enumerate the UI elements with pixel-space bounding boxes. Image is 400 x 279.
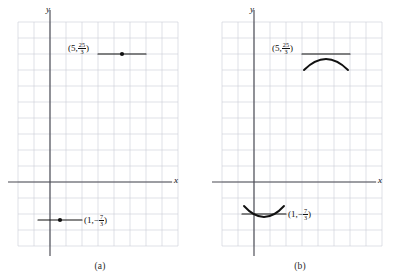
fraction-denominator: 3 <box>80 49 84 55</box>
label-close-paren: ) <box>290 44 293 53</box>
y-axis-label: y <box>46 4 50 14</box>
label-local-maximum: (5, 25 3 ) <box>272 42 293 56</box>
arc-concave-down-local-maximum <box>304 59 348 70</box>
label-sign: − <box>94 216 99 225</box>
fraction-25-over-3: 25 3 <box>282 42 290 56</box>
y-axis-label: y <box>250 4 254 14</box>
x-axis-label: x <box>174 175 178 185</box>
label-open-paren: (1, <box>288 210 298 219</box>
panel-a-plot <box>0 0 200 279</box>
figure-root: y x (5, 25 3 ) (1, − 7 3 ) (a) <box>0 0 400 279</box>
x-axis-label: x <box>378 175 382 185</box>
fraction-denominator: 3 <box>303 215 307 221</box>
point-local-minimum <box>58 218 62 222</box>
panel-a-caption: (a) <box>0 261 200 271</box>
panel-a: y x (5, 25 3 ) (1, − 7 3 ) (a) <box>0 0 200 279</box>
arc-concave-up-local-minimum <box>244 206 284 217</box>
label-close-paren: ) <box>86 44 89 53</box>
grid-lines <box>18 22 178 246</box>
panel-b-plot <box>200 0 400 279</box>
label-close-paren: ) <box>104 216 107 225</box>
label-open-paren: (5, <box>68 44 78 53</box>
point-local-maximum <box>120 52 124 56</box>
panel-b-caption: (b) <box>200 261 400 271</box>
fraction-25-over-3: 25 3 <box>78 42 86 56</box>
fraction-7-over-3: 7 3 <box>303 208 307 222</box>
fraction-7-over-3: 7 3 <box>99 214 103 228</box>
label-local-maximum: (5, 25 3 ) <box>68 42 89 56</box>
fraction-denominator: 3 <box>99 221 103 227</box>
label-local-minimum: (1, − 7 3 ) <box>84 214 107 228</box>
label-close-paren: ) <box>308 210 311 219</box>
label-open-paren: (5, <box>272 44 282 53</box>
fraction-denominator: 3 <box>284 49 288 55</box>
panel-b: y x (5, 25 3 ) (1, − 7 3 ) (b) <box>200 0 400 279</box>
label-open-paren: (1, <box>84 216 94 225</box>
label-local-minimum: (1, − 7 3 ) <box>288 208 311 222</box>
label-sign: − <box>298 210 303 219</box>
